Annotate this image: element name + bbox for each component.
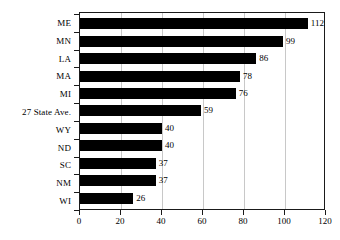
bar-row: 40 [80, 137, 324, 154]
x-axis-tick [325, 210, 326, 215]
bar[interactable] [80, 123, 162, 134]
bar-value-label: 112 [311, 19, 324, 28]
bar-chart: ME MN LA MA MI 27 State Ave. WY ND SC NM [0, 0, 340, 240]
category-label: 27 State Ave. [22, 107, 71, 117]
category-axis-labels: ME MN LA MA MI 27 State Ave. WY ND SC NM [0, 14, 75, 210]
category-label-row: 27 State Ave. [0, 103, 75, 121]
category-label: LA [59, 54, 71, 64]
category-label: NM [56, 178, 71, 188]
bar-value-label: 78 [243, 72, 252, 81]
bar[interactable] [80, 175, 156, 186]
category-label-row: ND [0, 139, 75, 157]
bar[interactable] [80, 88, 236, 99]
bar[interactable] [80, 36, 283, 47]
x-axis-tick [202, 210, 203, 215]
bar-value-label: 37 [159, 159, 168, 168]
bar-value-label: 26 [136, 194, 145, 203]
bar-row: 112 [80, 15, 324, 32]
bar-row: 37 [80, 172, 324, 189]
category-label-row: WY [0, 121, 75, 139]
bar-value-label: 40 [165, 141, 174, 150]
bar[interactable] [80, 71, 240, 82]
x-axis-tick-label: 0 [77, 216, 82, 226]
bar-value-label: 40 [165, 124, 174, 133]
bar-value-label: 59 [204, 106, 213, 115]
category-label: MA [56, 71, 71, 81]
category-label-row: MN [0, 32, 75, 50]
bar-row: 76 [80, 85, 324, 102]
bar-row: 37 [80, 155, 324, 172]
category-label: MN [56, 36, 71, 46]
x-axis-tick [161, 210, 162, 215]
category-label: SC [60, 160, 71, 170]
bar-value-label: 76 [239, 89, 248, 98]
category-label-row: WI [0, 192, 75, 210]
x-axis-tick-label: 60 [198, 216, 207, 226]
x-axis-labels: 020406080100120 [79, 216, 325, 230]
category-label-row: LA [0, 50, 75, 68]
bar[interactable] [80, 53, 256, 64]
bar[interactable] [80, 193, 133, 204]
x-axis-tick [243, 210, 244, 215]
bar[interactable] [80, 140, 162, 151]
bar-row: 86 [80, 50, 324, 67]
bar-series: 11299867876594040373726 [80, 13, 324, 209]
category-label: MI [60, 89, 71, 99]
bar-value-label: 86 [259, 54, 268, 63]
bar[interactable] [80, 18, 308, 29]
category-label-row: NM [0, 174, 75, 192]
x-axis-tick-label: 100 [277, 216, 291, 226]
x-axis-tick-label: 20 [116, 216, 125, 226]
category-label: ND [58, 143, 71, 153]
category-label-row: SC [0, 157, 75, 175]
bar-value-label: 37 [159, 176, 168, 185]
bar[interactable] [80, 158, 156, 169]
category-label: WY [56, 125, 71, 135]
bar-row: 26 [80, 190, 324, 207]
x-axis-tick-label: 120 [318, 216, 332, 226]
category-label: WI [59, 196, 71, 206]
bar[interactable] [80, 105, 201, 116]
x-axis-tick-label: 80 [239, 216, 248, 226]
plot-area: 11299867876594040373726 [79, 12, 325, 210]
bar-row: 40 [80, 120, 324, 137]
category-label-row: MA [0, 67, 75, 85]
bar-value-label: 99 [286, 37, 295, 46]
category-label-row: MI [0, 85, 75, 103]
bar-row: 59 [80, 102, 324, 119]
x-axis-tick [120, 210, 121, 215]
bar-row: 99 [80, 32, 324, 49]
category-label-row: ME [0, 14, 75, 32]
bar-row: 78 [80, 67, 324, 84]
x-axis-tick [284, 210, 285, 215]
x-axis-tick-label: 40 [157, 216, 166, 226]
category-label: ME [57, 18, 71, 28]
x-axis-tick [79, 210, 80, 215]
